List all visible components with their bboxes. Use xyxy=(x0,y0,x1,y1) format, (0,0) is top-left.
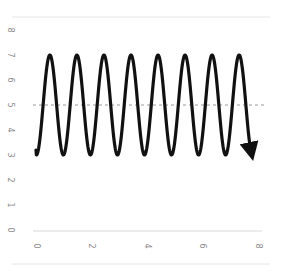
y-tick-label: 2 xyxy=(6,177,15,182)
y-tick-label: 5 xyxy=(6,102,15,107)
x-tick-label: 4 xyxy=(143,243,152,248)
y-tick-label: 7 xyxy=(6,52,15,57)
y-axis-labels: 012345678 xyxy=(6,27,15,232)
x-tick-label: 6 xyxy=(198,243,207,248)
y-tick-label: 0 xyxy=(6,227,15,232)
x-tick-label: 2 xyxy=(87,243,96,248)
y-tick-label: 8 xyxy=(6,27,15,32)
y-tick-label: 3 xyxy=(6,152,15,157)
y-tick-label: 6 xyxy=(6,77,15,82)
x-tick-label: 8 xyxy=(254,243,263,248)
chart: 012345678 02468 xyxy=(0,0,281,279)
y-tick-label: 1 xyxy=(6,202,15,207)
x-tick-label: 0 xyxy=(32,243,41,248)
y-tick-label: 4 xyxy=(6,127,15,132)
x-axis-labels: 02468 xyxy=(32,243,263,248)
